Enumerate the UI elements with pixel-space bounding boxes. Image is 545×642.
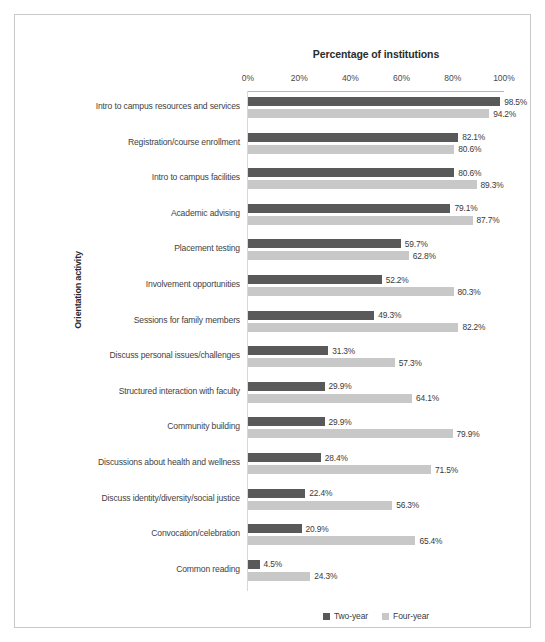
category-label: Sessions for family members bbox=[30, 315, 240, 325]
bar-two-year bbox=[248, 417, 325, 426]
bar-group: Common reading4.5%24.3% bbox=[248, 559, 504, 585]
bar-value-label: 20.9% bbox=[306, 524, 329, 534]
bar-four-year bbox=[248, 358, 395, 367]
legend-label: Four-year bbox=[393, 611, 429, 621]
bar-two-year bbox=[248, 346, 328, 355]
bar-value-label: 31.3% bbox=[332, 346, 355, 356]
bar-row-two-year: 49.3% bbox=[248, 311, 504, 320]
category-label: Placement testing bbox=[30, 243, 240, 253]
category-label: Discuss identity/diversity/social justic… bbox=[30, 493, 240, 503]
bar-four-year bbox=[248, 251, 409, 260]
bar-group: Discussions about health and wellness28.… bbox=[248, 452, 504, 478]
x-axis-tick: 80% bbox=[444, 73, 461, 83]
bar-group: Discuss identity/diversity/social justic… bbox=[248, 488, 504, 514]
bar-row-four-year: 64.1% bbox=[248, 394, 504, 403]
bar-group: Sessions for family members49.3%82.2% bbox=[248, 310, 504, 336]
bar-value-label: 65.4% bbox=[419, 536, 442, 546]
bar-row-two-year: 28.4% bbox=[248, 453, 504, 462]
category-label: Discussions about health and wellness bbox=[30, 457, 240, 467]
bar-group: Community building29.9%79.9% bbox=[248, 416, 504, 442]
bar-group: Convocation/celebration20.9%65.4% bbox=[248, 523, 504, 549]
bar-value-label: 79.9% bbox=[457, 429, 480, 439]
bar-four-year bbox=[248, 536, 415, 545]
bar-row-two-year: 22.4% bbox=[248, 489, 504, 498]
bar-value-label: 87.7% bbox=[477, 215, 500, 225]
bar-value-label: 98.5% bbox=[504, 97, 527, 107]
x-axis-line bbox=[248, 91, 504, 92]
bar-two-year bbox=[248, 489, 305, 498]
bar-value-label: 82.1% bbox=[462, 132, 485, 142]
bar-row-two-year: 20.9% bbox=[248, 524, 504, 533]
bar-row-four-year: 80.6% bbox=[248, 145, 504, 154]
x-axis-tick: 60% bbox=[393, 73, 410, 83]
bar-group: Registration/course enrollment82.1%80.6% bbox=[248, 132, 504, 158]
bar-four-year bbox=[248, 572, 310, 581]
bar-row-two-year: 82.1% bbox=[248, 133, 504, 142]
bar-group: Intro to campus facilities80.6%89.3% bbox=[248, 167, 504, 193]
bar-value-label: 64.1% bbox=[416, 393, 439, 403]
bar-two-year bbox=[248, 97, 500, 106]
bar-two-year bbox=[248, 133, 458, 142]
bar-value-label: 89.3% bbox=[481, 180, 504, 190]
x-axis-tick: 0% bbox=[242, 73, 254, 83]
bar-value-label: 29.9% bbox=[329, 381, 352, 391]
bar-row-four-year: 82.2% bbox=[248, 323, 504, 332]
x-axis-tick: 40% bbox=[342, 73, 359, 83]
bar-four-year bbox=[248, 109, 489, 118]
bar-group: Structured interaction with faculty29.9%… bbox=[248, 381, 504, 407]
bar-four-year bbox=[248, 216, 473, 225]
category-label: Structured interaction with faculty bbox=[30, 386, 240, 396]
bar-row-four-year: 62.8% bbox=[248, 251, 504, 260]
bar-four-year bbox=[248, 180, 477, 189]
bar-four-year bbox=[248, 287, 454, 296]
bar-row-four-year: 65.4% bbox=[248, 536, 504, 545]
x-axis-tick: 100% bbox=[493, 73, 515, 83]
bar-four-year bbox=[248, 429, 453, 438]
bar-four-year bbox=[248, 465, 431, 474]
category-label: Intro to campus facilities bbox=[30, 172, 240, 182]
bar-row-four-year: 56.3% bbox=[248, 501, 504, 510]
bar-value-label: 80.6% bbox=[458, 144, 481, 154]
bar-two-year bbox=[248, 560, 260, 569]
bar-row-two-year: 29.9% bbox=[248, 417, 504, 426]
bar-row-two-year: 4.5% bbox=[248, 560, 504, 569]
bar-two-year bbox=[248, 382, 325, 391]
legend-item[interactable]: Two-year bbox=[323, 611, 368, 621]
category-label: Common reading bbox=[30, 564, 240, 574]
bar-row-two-year: 31.3% bbox=[248, 346, 504, 355]
bar-four-year bbox=[248, 501, 392, 510]
bar-group: Involvement opportunities52.2%80.3% bbox=[248, 274, 504, 300]
category-label: Registration/course enrollment bbox=[30, 137, 240, 147]
bar-row-two-year: 52.2% bbox=[248, 275, 504, 284]
category-label: Intro to campus resources and services bbox=[30, 101, 240, 111]
legend-item[interactable]: Four-year bbox=[382, 611, 429, 621]
bar-value-label: 62.8% bbox=[413, 251, 436, 261]
bar-value-label: 94.2% bbox=[493, 109, 516, 119]
bar-value-label: 71.5% bbox=[435, 465, 458, 475]
bar-row-two-year: 79.1% bbox=[248, 204, 504, 213]
bar-row-two-year: 59.7% bbox=[248, 239, 504, 248]
bar-two-year bbox=[248, 275, 382, 284]
bar-group: Discuss personal issues/challenges31.3%5… bbox=[248, 345, 504, 371]
bar-two-year bbox=[248, 168, 454, 177]
bar-value-label: 57.3% bbox=[399, 358, 422, 368]
bar-row-four-year: 89.3% bbox=[248, 180, 504, 189]
category-label: Convocation/celebration bbox=[30, 528, 240, 538]
chart-figure: Percentage of institutions 0%20%40%60%80… bbox=[0, 0, 545, 642]
category-label: Discuss personal issues/challenges bbox=[30, 350, 240, 360]
bar-four-year bbox=[248, 145, 454, 154]
bar-row-four-year: 79.9% bbox=[248, 429, 504, 438]
chart-title: Percentage of institutions bbox=[248, 48, 504, 60]
bar-value-label: 49.3% bbox=[378, 310, 401, 320]
bar-value-label: 80.3% bbox=[458, 287, 481, 297]
legend-swatch-icon bbox=[382, 613, 389, 620]
bar-value-label: 56.3% bbox=[396, 500, 419, 510]
bar-two-year bbox=[248, 239, 401, 248]
bar-group: Intro to campus resources and services98… bbox=[248, 96, 504, 122]
bar-value-label: 29.9% bbox=[329, 417, 352, 427]
x-axis-tick: 20% bbox=[291, 73, 308, 83]
bar-group: Placement testing59.7%62.8% bbox=[248, 238, 504, 264]
bar-four-year bbox=[248, 394, 412, 403]
x-axis-tick-labels: 0%20%40%60%80%100% bbox=[248, 73, 504, 87]
bar-two-year bbox=[248, 204, 450, 213]
